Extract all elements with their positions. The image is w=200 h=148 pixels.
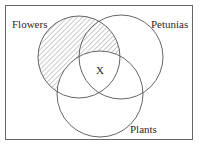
petunias-label: Petunias [151,19,188,30]
plants-label: Plants [130,124,157,135]
x-marker: X [96,65,104,76]
flowers-label: Flowers [12,19,47,30]
